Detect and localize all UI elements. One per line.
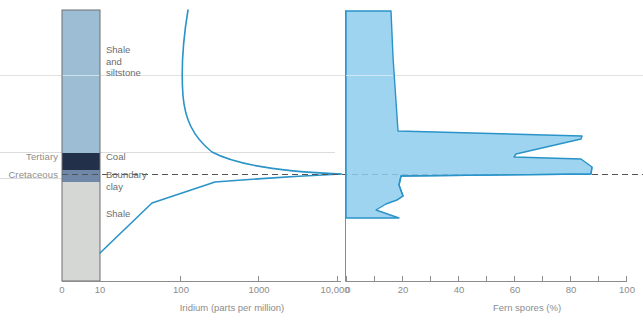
fern-tick-label-40: 40	[454, 285, 465, 295]
unit-label-coal: Coal	[106, 151, 126, 163]
iridium-axis	[62, 276, 341, 282]
iridium-tick-label-1000: 1000	[248, 285, 269, 295]
fern-tick-label-100: 100	[619, 285, 635, 295]
figure-canvas	[0, 0, 643, 326]
period-label-cretaceous: Cretaceous	[0, 169, 58, 181]
iridium-tick-label-10: 10	[95, 285, 106, 295]
fern-tick-label-20: 20	[398, 285, 409, 295]
unit-boundary-clay	[62, 170, 100, 182]
fern-spore-area	[346, 11, 592, 218]
fern-spore-polygon	[346, 11, 592, 218]
iridium-tick-label-100: 100	[173, 285, 189, 295]
fern-tick-label-80: 80	[566, 285, 577, 295]
fern-tick-label-0: 0	[345, 285, 350, 295]
unit-coal	[62, 153, 100, 170]
iridium-axis-title: Iridium (parts per million)	[180, 302, 285, 313]
lithology-column	[62, 10, 100, 281]
fern-tick-label-60: 60	[510, 285, 521, 295]
unit-label-shale-and-siltstone: Shale and siltstone	[106, 44, 141, 79]
unit-label-shale: Shale	[106, 208, 130, 220]
unit-label-boundary-clay: Boundary clay	[106, 169, 147, 192]
unit-shale-and-siltstone	[62, 10, 100, 153]
iridium-curve-upper	[182, 10, 341, 174]
stratigraphic-figure: Shale and siltstone Coal Boundary clay S…	[0, 0, 643, 326]
unit-shale	[62, 182, 100, 281]
iridium-tick-label-0: 0	[59, 285, 64, 295]
period-label-tertiary: Tertiary	[0, 151, 58, 163]
fern-axis-title: Fern spores (%)	[493, 302, 561, 313]
fern-axis	[346, 276, 628, 282]
